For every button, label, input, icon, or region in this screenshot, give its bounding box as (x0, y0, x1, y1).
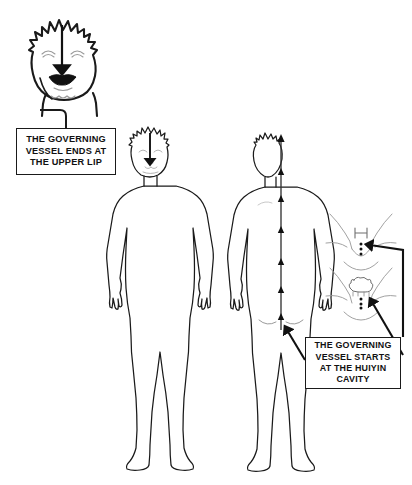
callout-upper-lip-line-1: THE GOVERNING (26, 134, 106, 146)
governing-vessel-diagram: THE GOVERNING VESSEL ENDS AT THE UPPER L… (0, 0, 412, 485)
callout-huiyin-line-3: AT THE HUIYIN (320, 363, 387, 374)
diagram-canvas (0, 0, 412, 485)
callout-upper-lip: THE GOVERNING VESSEL ENDS AT THE UPPER L… (16, 128, 116, 175)
callout-huiyin: THE GOVERNING VESSEL STARTS AT THE HUIYI… (305, 337, 401, 389)
callout-upper-lip-line-2: VESSEL ENDS AT (26, 146, 107, 158)
callout-huiyin-line-2: VESSEL STARTS (316, 352, 391, 363)
callout-huiyin-line-1: THE GOVERNING (314, 340, 391, 351)
huiyin-point-male (360, 243, 363, 256)
callout-huiyin-line-4: CAVITY (336, 374, 369, 385)
callout-upper-lip-line-3: THE UPPER LIP (30, 157, 102, 169)
huiyin-point-female (360, 298, 363, 310)
